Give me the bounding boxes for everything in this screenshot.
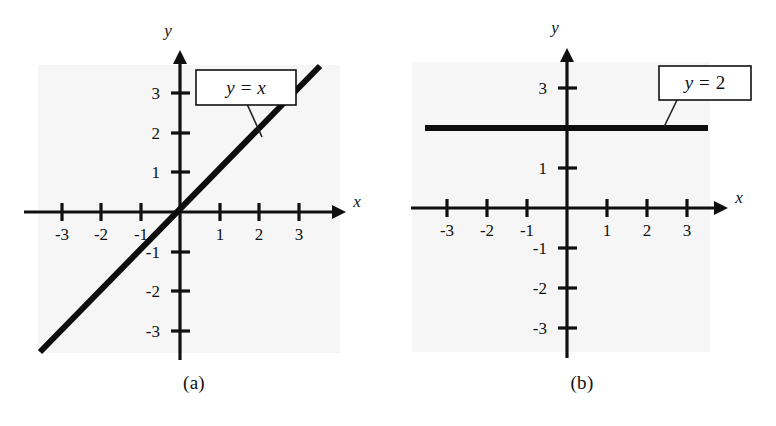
x-tick-label--2: -2 — [480, 221, 494, 240]
panel-a: y x -3 -2 -1 1 2 3 3 2 1 -1 -2 -3 y=x (a… — [0, 0, 388, 426]
x-axis-arrowhead — [332, 205, 346, 219]
figure-container: y x -3 -2 -1 1 2 3 3 2 1 -1 -2 -3 y=x (a… — [0, 0, 776, 426]
x-tick-label-3: 3 — [295, 225, 304, 244]
x-tick-label--3: -3 — [440, 221, 454, 240]
equation-callout-text: y=2 — [683, 72, 726, 93]
equation-lhs: y — [224, 77, 235, 98]
x-tick-label--1: -1 — [134, 225, 148, 244]
panel-b: y x -3 -2 -1 1 2 3 3 1 -1 -2 -3 y=2 (b) — [388, 0, 776, 426]
panel-b-caption: (b) — [388, 372, 776, 394]
equation-callout-text: y=x — [224, 77, 266, 98]
equation-operator: = — [241, 77, 252, 98]
panel-a-caption: (a) — [0, 372, 388, 394]
callout-leader-line — [664, 100, 677, 127]
y-tick-label--1: -1 — [146, 243, 160, 262]
equation-lhs: y — [683, 72, 694, 93]
y-tick-label--2: -2 — [533, 279, 547, 298]
y-tick-label--2: -2 — [146, 282, 160, 301]
x-axis-label: x — [734, 188, 743, 207]
y-tick-label--3: -3 — [146, 322, 160, 341]
equation-rhs: x — [256, 77, 266, 98]
x-axis-label: x — [352, 192, 361, 211]
x-tick-label-2: 2 — [255, 225, 264, 244]
x-tick-label--3: -3 — [55, 225, 69, 244]
panel-b-plot: y x -3 -2 -1 1 2 3 3 1 -1 -2 -3 y=2 — [388, 0, 776, 426]
panel-a-plot: y x -3 -2 -1 1 2 3 3 2 1 -1 -2 -3 y=x — [0, 0, 388, 426]
y-tick-label-1: 1 — [152, 163, 161, 182]
x-tick-label-1: 1 — [603, 221, 612, 240]
x-tick-label--1: -1 — [520, 221, 534, 240]
x-tick-label-1: 1 — [216, 225, 225, 244]
y-axis-arrowhead — [173, 50, 187, 64]
x-axis-arrowhead — [714, 201, 728, 215]
y-tick-label--3: -3 — [533, 319, 547, 338]
y-tick-label-3: 3 — [539, 79, 548, 98]
equation-rhs: 2 — [716, 72, 726, 93]
equation-operator: = — [699, 72, 710, 93]
x-tick-label-2: 2 — [643, 221, 652, 240]
y-tick-label--1: -1 — [533, 239, 547, 258]
y-tick-label-3: 3 — [152, 84, 161, 103]
y-tick-label-2: 2 — [152, 124, 161, 143]
y-axis-label: y — [549, 18, 559, 37]
y-axis-arrowhead — [560, 48, 574, 62]
y-tick-label-1: 1 — [539, 159, 548, 178]
x-tick-label--2: -2 — [94, 225, 108, 244]
x-tick-label-3: 3 — [683, 221, 692, 240]
y-axis-label: y — [162, 21, 172, 40]
